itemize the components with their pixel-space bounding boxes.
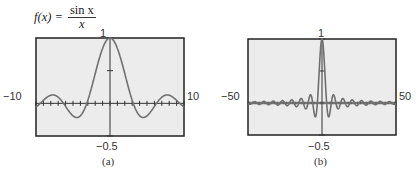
graph-b-ymin-label: −0.5	[308, 140, 330, 152]
graph-a-xmax-label: 10	[187, 90, 199, 102]
graph-b-ymax-label: 1	[318, 27, 324, 39]
graphs-canvas	[0, 0, 417, 174]
graph-b-caption: (b)	[314, 155, 327, 167]
graph-b-xmax-label: 50	[399, 90, 411, 102]
graph-a-ymax-label: 1	[100, 27, 106, 39]
graph-a-ymin-label: −0.5	[96, 140, 118, 152]
graph-a-xmin-label: −10	[3, 90, 22, 102]
graph-a-caption: (a)	[102, 155, 114, 167]
graph-b-xmin-label: −50	[221, 90, 240, 102]
